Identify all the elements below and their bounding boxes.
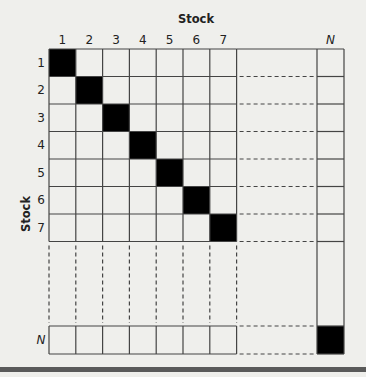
column-label: 4: [139, 33, 147, 47]
page-divider-bar: [0, 367, 366, 372]
row-label: 6: [37, 193, 45, 207]
column-label: 7: [219, 33, 227, 47]
filled-diagonal-cell: [129, 132, 156, 160]
column-label: 6: [193, 33, 201, 47]
row-label: 2: [37, 83, 45, 97]
column-label: 2: [85, 33, 93, 47]
row-axis-title: Stock: [19, 196, 33, 232]
row-label-n: N: [37, 333, 46, 347]
row-label: 5: [37, 166, 45, 180]
column-label-n: N: [326, 33, 335, 47]
filled-diagonal-cell: [210, 214, 237, 242]
filled-diagonal-cell: [183, 187, 210, 215]
column-axis-title: Stock: [178, 12, 214, 26]
column-label: 5: [166, 33, 174, 47]
row-label: 1: [37, 56, 45, 70]
row-label: 3: [37, 111, 45, 125]
covariance-matrix-diagram: StockStock1234567N1234567N: [0, 0, 366, 377]
row-label: 7: [37, 221, 45, 235]
row-label: 4: [37, 138, 45, 152]
filled-diagonal-cell-n: [317, 326, 344, 354]
filled-diagonal-cell: [76, 77, 103, 105]
filled-diagonal-cell: [49, 49, 76, 77]
filled-diagonal-cell: [156, 159, 183, 187]
filled-diagonal-cell: [103, 104, 130, 132]
matrix-grid: StockStock1234567N1234567N: [0, 0, 366, 377]
column-label: 1: [59, 33, 67, 47]
column-label: 3: [112, 33, 120, 47]
